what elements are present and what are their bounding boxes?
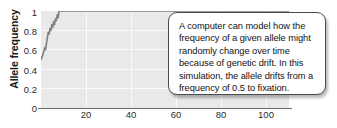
x-tick-label-80: 80	[216, 110, 227, 120]
x-tick-label-60: 60	[171, 110, 182, 120]
y-tick-label-0: 0	[14, 104, 37, 114]
genetic-drift-figure: Allele frequency 1 0.8 0.6 0.4 0.2 0 20 …	[0, 0, 337, 128]
x-axis-tick-labels: 20 40 60 80 100	[41, 110, 289, 126]
x-axis-line	[38, 108, 292, 109]
y-axis-tick-labels: 1 0.8 0.6 0.4 0.2 0	[14, 0, 37, 128]
y-tick-label-0-4: 0.4	[14, 66, 37, 76]
callout-box: A computer can model how the frequency o…	[168, 12, 326, 95]
y-tick-label-0-6: 0.6	[14, 46, 37, 56]
x-tick-label-100: 100	[258, 110, 274, 120]
x-tick-label-20: 20	[81, 110, 92, 120]
x-tick-label-40: 40	[126, 110, 137, 120]
y-tick-label-0-8: 0.8	[14, 27, 37, 37]
callout-text: A computer can model how the frequency o…	[179, 20, 316, 94]
y-tick-label-0-2: 0.2	[14, 85, 37, 95]
y-tick-label-1: 1	[14, 8, 37, 18]
